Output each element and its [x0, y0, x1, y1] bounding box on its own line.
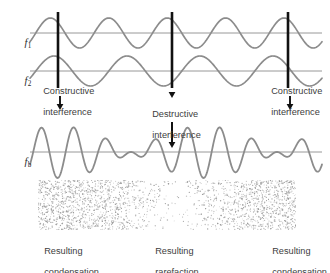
stipple-dot	[66, 210, 67, 211]
stipple-dot	[96, 201, 97, 202]
stipple-dot	[79, 182, 80, 183]
stipple-dot	[281, 180, 282, 181]
stipple-dot	[294, 183, 295, 184]
stipple-dot	[121, 222, 122, 223]
stipple-dot	[138, 197, 139, 198]
stipple-dot	[103, 212, 104, 213]
stipple-dot	[188, 186, 189, 187]
stipple-dot	[220, 200, 221, 201]
stipple-dot	[90, 228, 91, 229]
stipple-dot	[39, 192, 40, 193]
stipple-dot	[294, 200, 295, 201]
stipple-dot	[95, 189, 96, 190]
stipple-dot	[268, 221, 269, 222]
stipple-dot	[271, 204, 272, 205]
stipple-dot	[43, 195, 44, 196]
stipple-dot	[57, 187, 58, 188]
stipple-dot	[66, 206, 67, 207]
stipple-dot	[125, 198, 126, 199]
stipple-dot	[258, 189, 259, 190]
stipple-dot	[268, 215, 269, 216]
stipple-dot	[253, 228, 254, 229]
stipple-dot	[134, 189, 135, 190]
stipple-dot	[234, 187, 235, 188]
stipple-dot	[94, 219, 95, 220]
stipple-dot	[141, 203, 142, 204]
stipple-dot	[51, 212, 52, 213]
stipple-dot	[290, 209, 291, 210]
wave-f1-group	[30, 18, 322, 48]
stipple-dot	[114, 217, 115, 218]
stipple-dot	[74, 195, 75, 196]
stipple-dot	[205, 218, 206, 219]
stipple-dot	[49, 181, 50, 182]
stipple-dot	[109, 187, 110, 188]
stipple-dot	[101, 183, 102, 184]
stipple-dot	[112, 222, 113, 223]
stipple-dot	[109, 199, 110, 200]
stipple-dot	[236, 202, 237, 203]
stipple-dot	[205, 208, 206, 209]
stipple-dot	[70, 192, 71, 193]
stipple-dot	[219, 228, 220, 229]
stipple-dot	[73, 194, 74, 195]
stipple-dot	[290, 192, 291, 193]
stipple-dot	[253, 229, 254, 230]
stipple-dot	[95, 220, 96, 221]
stipple-dot	[40, 203, 41, 204]
stipple-dot	[68, 196, 69, 197]
stipple-dot	[245, 204, 246, 205]
stipple-dot	[277, 181, 278, 182]
stipple-dot	[45, 198, 46, 199]
stipple-dot	[78, 187, 79, 188]
stipple-dot	[190, 187, 191, 188]
stipple-dot	[261, 210, 262, 211]
stipple-dot	[286, 225, 287, 226]
stipple-dot	[198, 186, 199, 187]
stipple-dot	[102, 201, 103, 202]
stipple-dot	[289, 207, 290, 208]
stipple-dot	[287, 187, 288, 188]
stipple-dot	[100, 191, 101, 192]
stipple-dot	[142, 181, 143, 182]
stipple-dot	[250, 184, 251, 185]
stipple-dot	[124, 207, 125, 208]
stipple-dot	[48, 228, 49, 229]
stipple-dot	[39, 179, 40, 180]
stipple-dot	[295, 205, 296, 206]
stipple-dot	[211, 205, 212, 206]
stipple-dot	[186, 182, 187, 183]
stipple-dot	[254, 205, 255, 206]
stipple-dot	[258, 217, 259, 218]
stipple-dot	[86, 221, 87, 222]
stipple-dot	[259, 180, 260, 181]
stipple-dot	[98, 220, 99, 221]
stipple-dot	[84, 191, 85, 192]
stipple-dot	[68, 182, 69, 183]
stipple-dot	[268, 194, 269, 195]
stipple-dot	[87, 212, 88, 213]
stipple-dot	[270, 196, 271, 197]
stipple-dot	[118, 187, 119, 188]
stipple-dot	[277, 190, 278, 191]
stipple-dot	[64, 203, 65, 204]
stipple-dot	[106, 182, 107, 183]
stipple-dot	[94, 209, 95, 210]
stipple-dot	[107, 223, 108, 224]
stipple-dot	[132, 202, 133, 203]
stipple-dot	[105, 181, 106, 182]
stipple-dot	[40, 185, 41, 186]
stipple-dot	[254, 183, 255, 184]
stipple-dot	[257, 183, 258, 184]
stipple-dot	[293, 193, 294, 194]
stipple-dot	[110, 184, 111, 185]
stipple-dot	[127, 218, 128, 219]
stipple-dot	[202, 189, 203, 190]
stipple-dot	[239, 217, 240, 218]
stipple-dot	[161, 217, 162, 218]
stipple-field	[37, 179, 296, 230]
stipple-dot	[209, 190, 210, 191]
stipple-dot	[247, 209, 248, 210]
stipple-dot	[61, 192, 62, 193]
stipple-dot	[260, 224, 261, 225]
